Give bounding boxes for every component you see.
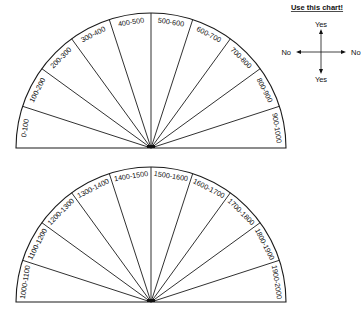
legend-title: Use this chart! [291,3,343,12]
legend-right-label: No [351,48,361,57]
legend: Use this chart! Yes Yes No No [281,3,360,84]
pivot-hub [147,299,155,302]
legend-up-label: Yes [315,20,327,29]
pivot-hub [147,145,155,148]
semicircle-chart-0-1000: 0-100100-200200-300300-400400-500500-600… [16,13,286,148]
pendulum-charts: 0-100100-200200-300300-400400-500500-600… [0,0,362,315]
legend-left-label: No [281,48,291,57]
legend-down-label: Yes [315,75,327,84]
semicircle-chart-1000-2000: 1000-11001100-12001200-13001300-14001400… [16,167,286,302]
cross-arrows-icon [296,29,346,74]
